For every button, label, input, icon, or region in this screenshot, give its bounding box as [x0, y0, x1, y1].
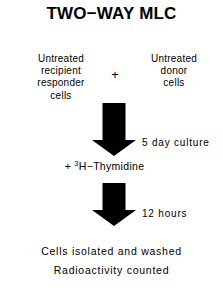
arrow-head: [92, 140, 136, 156]
reagent-prefix: +: [65, 160, 75, 172]
plus-operator: +: [101, 68, 129, 82]
recipient-line-2: recipient: [16, 65, 106, 77]
down-arrow-icon-step-1: [92, 103, 136, 156]
donor-line-1: Untreated: [131, 53, 217, 65]
recipient-line-4: cells: [16, 90, 106, 102]
donor-line-3: cells: [131, 77, 217, 89]
input-group-recipient: Untreated recipient responder cells: [16, 53, 106, 102]
arrow-shaft: [103, 183, 126, 211]
step-label-hours: 12 hours: [142, 208, 187, 220]
recipient-line-3: responder: [16, 77, 106, 89]
reagent-name: H−Thymidine: [79, 160, 144, 172]
recipient-line-1: Untreated: [16, 53, 106, 65]
input-group-donor: Untreated donor cells: [131, 53, 217, 90]
result-line-1: Cells isolated and washed: [0, 245, 223, 258]
step-label-culture: 5 day culture: [142, 137, 210, 149]
down-arrow-icon-step-2: [92, 183, 136, 226]
result-line-2: Radioactivity counted: [0, 264, 223, 277]
arrow-shaft: [103, 103, 126, 141]
reagent-thymidine: + 3H−Thymidine: [0, 160, 223, 173]
arrow-head: [92, 210, 136, 226]
diagram-title: TWO−WAY MLC: [0, 4, 223, 24]
donor-line-2: donor: [131, 65, 217, 77]
two-way-mlc-flow-diagram: TWO−WAY MLC Untreated recipient responde…: [0, 0, 223, 298]
